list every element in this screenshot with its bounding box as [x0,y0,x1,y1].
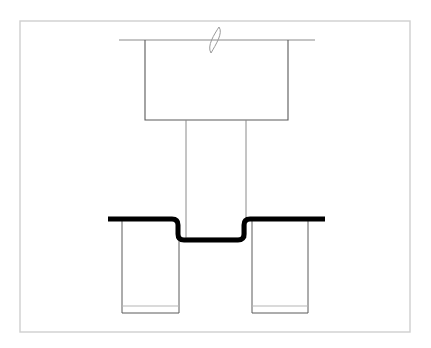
technical-drawing-svg [0,0,431,348]
right-support-pillar [252,221,308,313]
formed-sheet-panel [108,219,325,240]
drawing-border [20,21,410,332]
left-support-pillar [122,221,179,313]
drawing-canvas [0,0,431,348]
fastener-head-outline [145,40,288,120]
